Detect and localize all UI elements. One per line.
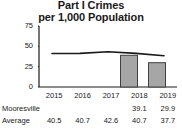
chart-title: Part I Crimes per 1,000 Population — [0, 0, 182, 23]
chart-title-line-1: Part I Crimes — [0, 0, 182, 12]
bar-mooresville-2019 — [149, 63, 166, 87]
cell-mooresville-2016 — [68, 103, 96, 116]
row-label-mooresville: Mooresville — [0, 103, 40, 116]
table-header-row: 2015 2016 2017 2018 2019 — [0, 90, 182, 103]
header-cell-2018: 2018 — [125, 90, 153, 103]
data-table: 2015 2016 2017 2018 2019 Mooresville 39.… — [0, 90, 182, 128]
line-average — [52, 52, 164, 56]
header-cell-2017: 2017 — [97, 90, 125, 103]
cell-average-2018: 40.7 — [125, 115, 153, 128]
part-i-crimes-chart-card: Part I Crimes per 1,000 Population 75 50… — [0, 0, 182, 129]
row-label-average: Average — [0, 115, 40, 128]
cell-average-2017: 42.6 — [97, 115, 125, 128]
y-axis-tick-75: 75 — [11, 22, 33, 30]
cell-average-2019: 37.7 — [154, 115, 182, 128]
cell-mooresville-2019: 29.9 — [154, 103, 182, 116]
cell-average-2015: 40.5 — [40, 115, 68, 128]
y-axis-tick-50: 50 — [11, 42, 33, 50]
cell-mooresville-2017 — [97, 103, 125, 116]
plot-svg — [38, 25, 178, 91]
cell-mooresville-2018: 39.1 — [125, 103, 153, 116]
y-axis-tick-25: 25 — [11, 63, 33, 71]
table-row: Mooresville 39.1 29.9 — [0, 103, 182, 116]
cell-average-2016: 40.7 — [68, 115, 96, 128]
header-cell-2016: 2016 — [68, 90, 96, 103]
header-cell-blank — [0, 90, 40, 103]
plot-area — [38, 25, 178, 89]
table-row: Average 40.5 40.7 42.6 40.7 37.7 — [0, 115, 182, 128]
cell-mooresville-2015 — [40, 103, 68, 116]
header-cell-2019: 2019 — [154, 90, 182, 103]
header-cell-2015: 2015 — [40, 90, 68, 103]
bar-mooresville-2018 — [121, 55, 138, 87]
